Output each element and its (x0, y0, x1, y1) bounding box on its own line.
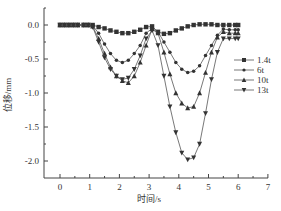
series-10t (58, 22, 241, 110)
triangle-down-marker (161, 74, 166, 79)
y-tick-label: -1.5 (25, 122, 40, 132)
line-chart: 0.0-0.5-1.0-1.5-2.001234567 1.4t6t10t13t… (0, 0, 281, 211)
square-marker (180, 26, 184, 30)
triangle-down-marker (185, 157, 190, 162)
legend-item: 6t (234, 65, 265, 75)
legend-item: 1.4t (234, 55, 271, 65)
circle-marker (109, 52, 113, 56)
triangle-down-marker (215, 50, 220, 55)
x-axis-title: 时间/s (137, 193, 162, 204)
x-tick-label: 1 (87, 182, 92, 192)
circle-marker (121, 61, 125, 65)
legend-item: 10t (234, 75, 269, 85)
y-tick-label: -2.0 (25, 156, 40, 166)
legend-label: 13t (257, 85, 269, 95)
triangle-up-marker (221, 29, 226, 34)
circle-marker (138, 44, 142, 48)
square-marker (144, 25, 148, 29)
square-marker (203, 22, 207, 26)
plot-area (58, 22, 241, 162)
circle-marker (198, 64, 202, 68)
triangle-down-marker (156, 43, 161, 48)
square-marker (138, 28, 142, 32)
y-tick-label: -0.5 (25, 54, 40, 64)
circle-marker (204, 54, 208, 58)
triangle-up-marker (161, 50, 166, 55)
square-marker (120, 31, 124, 35)
x-tick-label: 7 (266, 182, 271, 192)
circle-marker (174, 61, 178, 65)
circle-marker (168, 50, 172, 54)
legend-label: 10t (257, 75, 269, 85)
y-tick-label: 0.0 (28, 20, 40, 30)
legend-item: 13t (234, 85, 269, 95)
square-marker (168, 31, 172, 35)
x-tick-label: 6 (236, 182, 241, 192)
triangle-down-marker (167, 104, 172, 109)
legend-label: 6t (257, 65, 265, 75)
triangle-up-marker (132, 73, 137, 78)
series-line (60, 25, 238, 108)
triangle-up-marker (203, 70, 208, 75)
triangle-up-marker (209, 50, 214, 55)
circle-marker (115, 59, 119, 63)
x-tick-label: 0 (58, 182, 63, 192)
circle-marker (180, 67, 184, 71)
square-marker (174, 28, 178, 32)
square-marker (102, 26, 106, 30)
x-tick-label: 3 (147, 182, 152, 192)
circle-marker (210, 44, 214, 48)
circle-marker (242, 68, 245, 71)
square-marker (227, 23, 231, 27)
series-13t (58, 23, 241, 163)
circle-marker (192, 69, 196, 73)
square-marker (126, 31, 130, 35)
square-marker (186, 24, 190, 28)
series-line (60, 25, 238, 73)
square-marker (215, 23, 219, 27)
square-marker (197, 22, 201, 26)
triangle-down-marker (197, 142, 202, 147)
circle-marker (127, 59, 131, 63)
triangle-up-marker (167, 71, 172, 76)
square-marker (221, 23, 225, 27)
circle-marker (132, 52, 136, 56)
square-marker (132, 30, 136, 34)
circle-marker (186, 71, 190, 75)
circle-marker (144, 31, 148, 35)
square-marker (108, 28, 112, 32)
x-tick-label: 4 (177, 182, 182, 192)
square-marker (242, 58, 246, 62)
triangle-up-marker (197, 90, 202, 95)
y-tick-label: -1.0 (25, 88, 40, 98)
square-marker (191, 23, 195, 27)
axes: 0.0-0.5-1.0-1.5-2.001234567 (25, 8, 271, 192)
square-marker (114, 30, 118, 34)
legend: 1.4t6t10t13t (234, 55, 271, 95)
triangle-up-marker (179, 101, 184, 106)
circle-marker (162, 40, 166, 44)
square-marker (162, 32, 166, 36)
square-marker (209, 22, 213, 26)
triangle-down-marker (203, 111, 208, 116)
circle-marker (103, 42, 107, 46)
circle-marker (97, 31, 101, 35)
legend-label: 1.4t (257, 55, 271, 65)
x-tick-label: 5 (206, 182, 211, 192)
triangle-down-marker (209, 77, 214, 82)
y-axis-title: 位移/mm (2, 78, 13, 113)
square-marker (236, 23, 240, 27)
square-marker (96, 25, 100, 29)
triangle-down-marker (173, 130, 178, 135)
triangle-up-marker (173, 90, 178, 95)
x-tick-label: 2 (117, 182, 122, 192)
triangle-up-marker (191, 104, 196, 109)
